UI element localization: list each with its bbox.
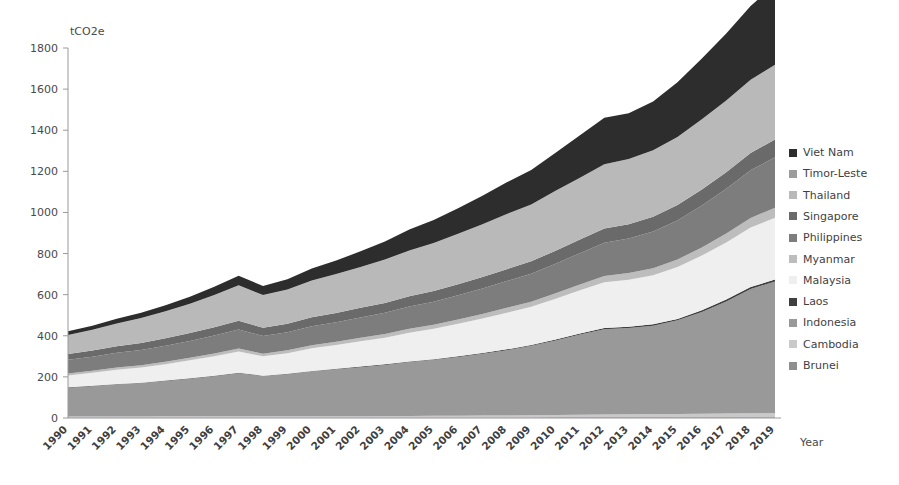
x-tick-label: 2019 xyxy=(747,423,776,452)
legend-label: Myanmar xyxy=(803,253,855,266)
x-tick-label: 1997 xyxy=(211,423,240,452)
x-tick-label: 1998 xyxy=(235,423,264,452)
y-axis: 020040060080010001200140016001800 xyxy=(30,42,68,425)
x-tick-label: 1999 xyxy=(260,423,289,452)
legend-item-timor-leste[interactable]: Timor-Leste xyxy=(789,167,867,180)
y-tick-label: 1000 xyxy=(30,206,58,219)
legend-item-cambodia[interactable]: Cambodia xyxy=(789,338,859,351)
area-series-group xyxy=(68,0,775,418)
legend-label: Viet Nam xyxy=(803,146,854,159)
y-tick-label: 1600 xyxy=(30,83,58,96)
x-tick-label: 1992 xyxy=(89,423,118,452)
legend-item-philippines[interactable]: Philippines xyxy=(789,231,862,244)
legend-label: Thailand xyxy=(803,189,850,202)
x-tick-label: 2014 xyxy=(625,423,654,452)
legend-item-thailand[interactable]: Thailand xyxy=(789,189,850,202)
legend-item-malaysia[interactable]: Malaysia xyxy=(789,274,851,287)
y-tick-label: 600 xyxy=(37,289,58,302)
y-tick-label: 0 xyxy=(51,412,58,425)
legend-item-myanmar[interactable]: Myanmar xyxy=(789,253,855,266)
legend-label: Malaysia xyxy=(803,274,851,287)
x-tick-label: 1993 xyxy=(113,423,142,452)
x-tick-label: 2016 xyxy=(674,423,703,452)
x-tick-label: 2012 xyxy=(577,423,606,452)
x-tick-label: 1995 xyxy=(162,423,191,452)
legend-swatch-icon xyxy=(789,234,797,242)
legend-swatch-icon xyxy=(789,340,797,348)
legend-item-singapore[interactable]: Singapore xyxy=(789,210,859,223)
legend-label: Singapore xyxy=(803,210,859,223)
y-tick-label: 200 xyxy=(37,371,58,384)
legend-swatch-icon xyxy=(789,191,797,199)
legend-swatch-icon xyxy=(789,255,797,263)
legend-label: Cambodia xyxy=(803,338,859,351)
legend-item-laos[interactable]: Laos xyxy=(789,295,828,308)
legend-item-indonesia[interactable]: Indonesia xyxy=(789,316,856,329)
x-tick-label: 2015 xyxy=(650,423,679,452)
x-tick-label: 1994 xyxy=(138,423,167,452)
x-tick-label: 2005 xyxy=(406,423,435,452)
x-tick-label: 1990 xyxy=(40,423,69,452)
legend-item-brunei[interactable]: Brunei xyxy=(789,359,839,372)
legend-swatch-icon xyxy=(789,212,797,220)
legend-label: Indonesia xyxy=(803,316,856,329)
legend-swatch-icon xyxy=(789,170,797,178)
x-tick-label: 2017 xyxy=(698,423,727,452)
x-tick-label: 2004 xyxy=(382,423,411,452)
x-tick-label: 2000 xyxy=(284,423,313,452)
legend-label: Philippines xyxy=(803,231,862,244)
legend-swatch-icon xyxy=(789,362,797,370)
x-tick-label: 2007 xyxy=(455,423,484,452)
x-tick-label: 2013 xyxy=(601,423,630,452)
x-tick-label: 1996 xyxy=(187,423,216,452)
y-axis-unit-label: tCO2e xyxy=(70,25,105,38)
x-tick-label: 2006 xyxy=(430,423,459,452)
stacked-area-chart: 020040060080010001200140016001800 199019… xyxy=(0,0,899,485)
legend-swatch-icon xyxy=(789,319,797,327)
legend-swatch-icon xyxy=(789,149,797,157)
legend-label: Timor-Leste xyxy=(803,167,867,180)
y-tick-label: 400 xyxy=(37,330,58,343)
legend-item-viet-nam[interactable]: Viet Nam xyxy=(789,146,854,159)
x-tick-label: 2008 xyxy=(479,423,508,452)
y-tick-label: 1200 xyxy=(30,165,58,178)
x-tick-label: 2002 xyxy=(333,423,362,452)
x-tick-label: 2010 xyxy=(528,423,557,452)
legend-label: Laos xyxy=(803,295,828,308)
legend-swatch-icon xyxy=(789,298,797,306)
x-tick-label: 2009 xyxy=(503,423,532,452)
x-tick-label: 2018 xyxy=(723,423,752,452)
legend-label: Brunei xyxy=(803,359,839,372)
x-tick-label: 2011 xyxy=(552,423,581,452)
x-tick-label: 2003 xyxy=(357,423,386,452)
y-tick-label: 1800 xyxy=(30,42,58,55)
y-tick-label: 1400 xyxy=(30,124,58,137)
x-axis: 1990199119921993199419951996199719981999… xyxy=(40,418,781,452)
y-tick-label: 800 xyxy=(37,248,58,261)
legend-swatch-icon xyxy=(789,276,797,284)
x-tick-label: 2001 xyxy=(308,423,337,452)
x-tick-label: 1991 xyxy=(65,423,94,452)
x-axis-title: Year xyxy=(799,436,824,449)
chart-canvas: 020040060080010001200140016001800 199019… xyxy=(0,0,899,485)
